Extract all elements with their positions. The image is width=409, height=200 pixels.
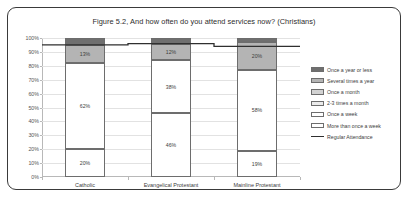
bar-segment[interactable] xyxy=(237,38,277,42)
bar-segment-label: 20% xyxy=(80,160,90,166)
x-axis-tick-mark xyxy=(42,177,43,180)
y-axis-tick-mark xyxy=(40,135,43,136)
y-axis-tick-mark xyxy=(40,163,43,164)
legend-color-swatch xyxy=(311,112,324,117)
legend-item[interactable]: Once a year or less xyxy=(311,64,409,75)
y-axis-tick-label: 80% xyxy=(28,63,39,69)
y-axis-tick-mark xyxy=(40,94,43,95)
x-axis-tick-mark xyxy=(214,177,215,180)
bar-segment[interactable]: 62% xyxy=(65,63,105,149)
y-axis-tick-mark xyxy=(40,52,43,53)
y-axis-tick-mark xyxy=(40,121,43,122)
stacked-bar[interactable]: 20%62%13%Catholic xyxy=(65,38,105,177)
bar-segment[interactable]: 38% xyxy=(151,60,191,113)
bar-segment[interactable]: 20% xyxy=(237,42,277,70)
chart-frame: Figure 5.2, And how often do you attend … xyxy=(7,7,401,190)
bar-segment-label: 19% xyxy=(252,161,262,167)
bar-segment[interactable] xyxy=(65,38,105,45)
legend-item-label: Several times a year xyxy=(327,78,374,84)
legend-item-label: More than once a week xyxy=(327,123,381,129)
legend-item[interactable]: 2-3 times a month xyxy=(311,98,409,109)
legend-color-swatch xyxy=(311,67,324,72)
y-axis-tick-label: 10% xyxy=(28,160,39,166)
y-axis-tick-label: 70% xyxy=(28,77,39,83)
legend-item[interactable]: More than once a week xyxy=(311,120,409,131)
legend-item[interactable]: Once a month xyxy=(311,86,409,97)
x-axis-category-label: Evangelical Protestant xyxy=(144,182,199,188)
y-axis-tick-label: 60% xyxy=(28,91,39,97)
legend-item-label: Once a month xyxy=(327,89,360,95)
y-axis-tick-label: 30% xyxy=(28,132,39,138)
y-axis-tick-label: 40% xyxy=(28,118,39,124)
y-axis-tick-label: 90% xyxy=(28,49,39,55)
y-axis-tick-mark xyxy=(40,80,43,81)
legend: Once a year or lessSeveral times a yearO… xyxy=(311,64,409,142)
stacked-bar[interactable]: 19%58%20%Mainline Protestant xyxy=(237,38,277,177)
x-axis-tick-mark xyxy=(300,177,301,180)
y-axis-tick-mark xyxy=(40,38,43,39)
bar-segment[interactable]: 46% xyxy=(151,113,191,177)
plot-area: 100%90%80%70%60%50%40%30%20%10%0% 20%62%… xyxy=(42,38,300,177)
bar-segment-label: 58% xyxy=(252,107,262,113)
bar-segment[interactable]: 20% xyxy=(65,149,105,177)
bar-segment-label: 12% xyxy=(166,49,176,55)
y-axis-tick-label: 20% xyxy=(28,146,39,152)
legend-item-label: 2-3 times a month xyxy=(327,100,369,106)
y-axis-tick-label: 50% xyxy=(28,105,39,111)
bar-segment[interactable]: 58% xyxy=(237,70,277,151)
y-axis-tick-label: 100% xyxy=(25,35,39,41)
x-axis-category-label: Mainline Protestant xyxy=(233,182,280,188)
bar-segment-label: 62% xyxy=(80,103,90,109)
bar-segment[interactable]: 12% xyxy=(151,44,191,61)
y-axis-tick-label: 0% xyxy=(31,174,39,180)
bar-segment-label: 13% xyxy=(80,51,90,57)
legend-item[interactable]: Once a week xyxy=(311,109,409,120)
bar-segment-label: 20% xyxy=(252,53,262,59)
legend-color-swatch xyxy=(311,123,324,128)
x-axis-tick-mark xyxy=(128,177,129,180)
legend-item-label: Once a year or less xyxy=(327,67,372,73)
bar-segment[interactable] xyxy=(151,38,191,44)
x-axis-category-label: Catholic xyxy=(75,182,95,188)
legend-color-swatch xyxy=(311,89,324,94)
legend-item[interactable]: Regular Attendance xyxy=(311,131,409,142)
legend-color-swatch xyxy=(311,78,324,83)
legend-color-swatch xyxy=(311,101,324,106)
bar-segment-label: 38% xyxy=(166,84,176,90)
y-axis-tick-mark xyxy=(40,108,43,109)
bar-segment-label: 46% xyxy=(166,142,176,148)
legend-line-swatch xyxy=(311,136,324,137)
bar-segment[interactable]: 13% xyxy=(65,45,105,63)
legend-item[interactable]: Several times a year xyxy=(311,75,409,86)
chart-title: Figure 5.2, And how often do you attend … xyxy=(8,17,400,26)
legend-item-label: Once a week xyxy=(327,111,357,117)
stacked-bar[interactable]: 46%38%12%Evangelical Protestant xyxy=(151,38,191,177)
y-axis-tick-mark xyxy=(40,66,43,67)
legend-item-label: Regular Attendance xyxy=(327,134,373,140)
y-axis-tick-mark xyxy=(40,149,43,150)
bar-segment[interactable]: 19% xyxy=(237,151,277,177)
